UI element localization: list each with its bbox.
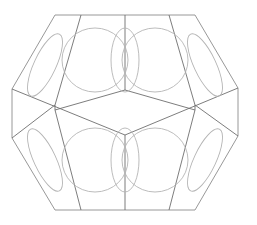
polyhedron-diagram bbox=[0, 0, 257, 225]
inner-edge bbox=[55, 90, 125, 110]
polyhedron-inner-edges bbox=[12, 15, 238, 210]
inner-edge bbox=[125, 90, 195, 110]
face-circle bbox=[62, 28, 128, 92]
inner-edge bbox=[12, 105, 55, 138]
inner-edge bbox=[169, 110, 195, 210]
inner-edge bbox=[195, 105, 238, 136]
face-circle bbox=[122, 128, 188, 192]
inner-edge bbox=[12, 89, 125, 135]
face-circle bbox=[62, 128, 128, 192]
face-circle bbox=[122, 28, 188, 92]
inner-edge bbox=[55, 110, 81, 210]
